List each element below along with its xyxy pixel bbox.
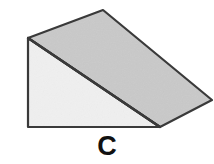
figure-label-c: C [0,131,214,161]
figure-container: C [0,0,214,164]
